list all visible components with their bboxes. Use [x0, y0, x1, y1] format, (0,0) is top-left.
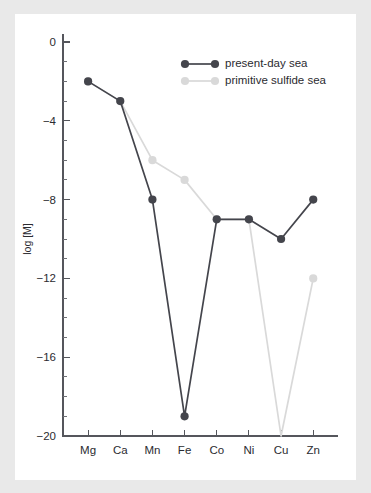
y-tick-label: 0: [50, 36, 56, 48]
axis-spines: [63, 34, 338, 436]
legend-marker: [211, 77, 219, 85]
data-point: [309, 274, 317, 282]
series-primitive-sulfide-sea: [84, 77, 317, 436]
data-point: [84, 77, 92, 85]
legend-marker: [181, 60, 189, 68]
legend-label: primitive sulfide sea: [225, 74, 327, 86]
x-tick-label: Zn: [307, 444, 320, 456]
series-line: [88, 81, 313, 416]
legend-label: present-day sea: [225, 57, 308, 69]
x-tick-label: Fe: [178, 444, 191, 456]
y-tick-label: −16: [36, 351, 56, 363]
x-tick-label: Cu: [274, 444, 289, 456]
x-tick-label: Ca: [113, 444, 128, 456]
data-point: [213, 215, 221, 223]
figure-root: 0−4−8−12−16−20log [M]MgCaMnFeCoNiCuZnpre…: [0, 0, 371, 493]
data-point: [309, 196, 317, 204]
legend-marker: [211, 60, 219, 68]
y-tick-label: −8: [43, 194, 56, 206]
data-point: [180, 412, 188, 420]
chart-panel: 0−4−8−12−16−20log [M]MgCaMnFeCoNiCuZnpre…: [15, 14, 356, 480]
y-tick-label: −20: [36, 430, 56, 442]
data-point: [277, 235, 285, 243]
series-line: [88, 81, 313, 436]
legend-item: present-day sea: [181, 57, 308, 69]
line-chart: 0−4−8−12−16−20log [M]MgCaMnFeCoNiCuZnpre…: [15, 14, 356, 480]
data-point: [148, 156, 156, 164]
x-tick-label: Mg: [80, 444, 96, 456]
y-tick-label: −4: [43, 115, 57, 127]
legend-item: primitive sulfide sea: [181, 74, 327, 86]
x-tick-label: Mn: [144, 444, 160, 456]
y-axis-title: log [M]: [21, 223, 33, 255]
data-point: [180, 176, 188, 184]
data-point: [116, 97, 124, 105]
series-present-day-sea: [84, 77, 317, 420]
x-tick-label: Co: [209, 444, 224, 456]
data-point: [148, 196, 156, 204]
y-tick-label: −12: [36, 272, 56, 284]
legend-marker: [181, 77, 189, 85]
data-point: [245, 215, 253, 223]
x-tick-label: Ni: [243, 444, 254, 456]
